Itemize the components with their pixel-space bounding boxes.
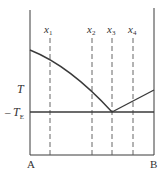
component-b-label: B [150,158,157,170]
phase-diagram: x1 x2 x3 x4 T – TE A B [0,0,164,172]
eutectic-temperature-label: TE [13,105,24,121]
liquidus-right [112,90,154,112]
eutectic-tick: – [4,106,11,118]
liquidus-left [30,50,112,112]
label-x1: x1 [43,23,53,37]
label-x3: x3 [106,23,116,37]
label-x4: x4 [127,23,137,37]
component-a-label: A [27,158,35,170]
temperature-label: T [17,82,25,96]
label-x2: x2 [86,23,96,37]
